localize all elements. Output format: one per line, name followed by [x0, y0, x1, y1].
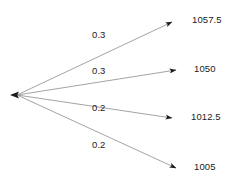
- branch-probability-1: 0.3: [92, 30, 106, 40]
- tree-graphic: [0, 0, 230, 185]
- branch-probability-4: 0.2: [92, 140, 106, 150]
- outcome-value-4: 1005: [194, 162, 216, 172]
- branch-probability-3: 0.2: [92, 103, 106, 113]
- outcome-value-3: 1012.5: [191, 112, 221, 122]
- outcome-value-2: 1050: [194, 64, 216, 74]
- outcome-value-1: 1057.5: [192, 15, 222, 25]
- branch-probability-2: 0.3: [92, 66, 106, 76]
- diagram-canvas: 0.3 0.3 0.2 0.2 1057.5 1050 1012.5 1005: [0, 0, 230, 185]
